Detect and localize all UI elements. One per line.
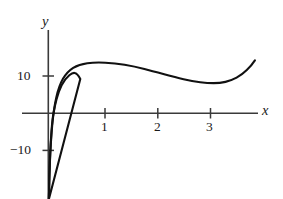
y-tick-label-neg10: −10 bbox=[10, 143, 31, 157]
graph-figure: 10 −10 1 2 3 y x bbox=[0, 0, 283, 199]
function-curve bbox=[49, 73, 80, 199]
x-tick-label-1: 1 bbox=[101, 120, 108, 134]
plot-canvas bbox=[0, 0, 283, 199]
y-tick-label-10: 10 bbox=[17, 69, 31, 83]
x-axis-label: x bbox=[262, 103, 268, 118]
x-tick-label-2: 2 bbox=[154, 120, 161, 134]
y-axis-label: y bbox=[42, 14, 48, 29]
x-tick-label-3: 3 bbox=[206, 120, 213, 134]
